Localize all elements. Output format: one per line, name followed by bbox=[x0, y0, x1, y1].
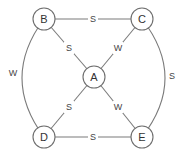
edge-label: S bbox=[90, 132, 96, 142]
node-e: E bbox=[131, 126, 153, 148]
node-label: B bbox=[40, 13, 47, 25]
node-a: A bbox=[83, 66, 105, 88]
edge-line bbox=[142, 19, 165, 137]
nodes-layer: ABCDE bbox=[33, 8, 153, 148]
edge-label: S bbox=[66, 43, 72, 53]
graph-diagram: SSWWSSWS ABCDE bbox=[0, 0, 185, 156]
edge-line bbox=[22, 19, 44, 137]
node-label: D bbox=[40, 131, 48, 143]
node-label: A bbox=[90, 71, 98, 83]
edge-label: S bbox=[66, 102, 72, 112]
edge-label: W bbox=[114, 43, 123, 53]
node-label: C bbox=[138, 13, 146, 25]
edge-label: W bbox=[9, 68, 18, 78]
edge-label: W bbox=[114, 102, 123, 112]
edge-a-d: S bbox=[44, 77, 94, 137]
edge-d-e: S bbox=[44, 131, 142, 143]
node-d: D bbox=[33, 126, 55, 148]
edge-label: S bbox=[169, 71, 175, 81]
node-b: B bbox=[33, 8, 55, 30]
edge-b-c: S bbox=[44, 13, 142, 25]
edge-label: S bbox=[90, 14, 96, 24]
edge-b-d: W bbox=[8, 19, 44, 137]
node-label: E bbox=[138, 131, 145, 143]
node-c: C bbox=[131, 8, 153, 30]
edge-c-e: S bbox=[142, 19, 177, 137]
